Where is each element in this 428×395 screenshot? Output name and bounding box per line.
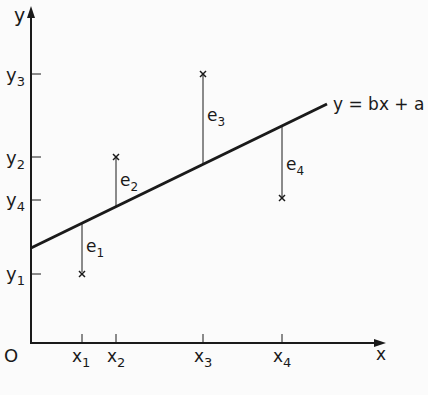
line-equation-label: y = bx + a bbox=[333, 94, 424, 114]
residual-label-4: e4 bbox=[286, 154, 304, 178]
residual-label-2: e2 bbox=[120, 170, 138, 194]
x-axis-label: x bbox=[376, 344, 386, 364]
regression-line bbox=[31, 104, 327, 248]
residual-label-1: e1 bbox=[86, 236, 104, 260]
y-axis-label: y bbox=[14, 4, 25, 26]
x-tick-label-4: x4 bbox=[273, 346, 291, 370]
y-tick-label-1: y1 bbox=[6, 263, 25, 288]
x-tick-label-1: x1 bbox=[72, 346, 90, 370]
x-tick-label-3: x3 bbox=[194, 346, 212, 370]
y-axis-arrow-icon bbox=[27, 6, 35, 18]
y-tick-label-3: y3 bbox=[6, 64, 25, 89]
y-tick-label-2: y2 bbox=[6, 147, 25, 172]
y-tick-label-4: y4 bbox=[6, 189, 25, 214]
residual-label-3: e3 bbox=[207, 105, 225, 129]
regression-diagram: y x O y3 y2 y4 y1 x1 x2 x3 x4 e1 e2 e3 e… bbox=[0, 0, 428, 395]
x-tick-label-2: x2 bbox=[107, 346, 125, 370]
origin-label: O bbox=[4, 345, 18, 366]
